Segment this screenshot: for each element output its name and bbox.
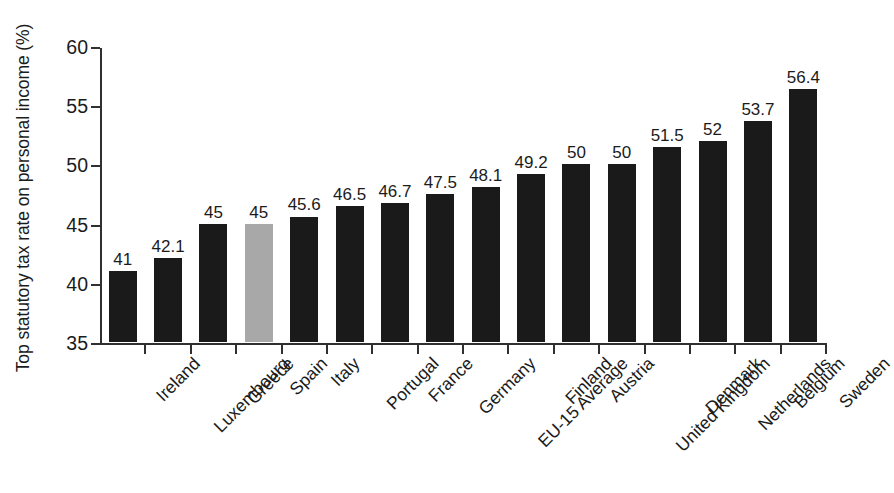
bar [699, 141, 727, 342]
x-axis-tick [371, 345, 373, 354]
bar [653, 147, 681, 342]
x-axis-tick [553, 345, 555, 354]
bar-value-label: 52 [683, 121, 743, 138]
x-axis-tick [825, 345, 827, 354]
x-axis-tick [598, 345, 600, 354]
bar [517, 174, 545, 342]
y-axis-tick-label: 50 [44, 156, 88, 176]
y-axis-tick-label: 40 [44, 275, 88, 295]
x-axis-tick [644, 345, 646, 354]
y-axis-tick [91, 225, 100, 227]
bar [472, 187, 500, 342]
x-axis-tick [235, 345, 237, 354]
bar-value-label: 56.4 [773, 69, 833, 86]
bar [109, 271, 137, 342]
x-axis-category-label: Germany [475, 354, 539, 418]
y-axis-tick-label: 55 [44, 97, 88, 117]
y-axis-tick-label: 45 [44, 216, 88, 236]
x-axis-tick [734, 345, 736, 354]
y-axis-title: Top statutory tax rate on personal incom… [8, 18, 38, 378]
plot-area: 354045505560 4142.1454545.646.546.747.54… [100, 48, 826, 344]
y-axis-tick [91, 106, 100, 108]
y-axis-line [100, 48, 102, 345]
bar [245, 224, 273, 342]
x-axis-tick [689, 345, 691, 354]
y-axis-tick [91, 284, 100, 286]
x-axis-category-label: Italy [328, 354, 363, 389]
bar-value-label: 53.7 [728, 101, 788, 118]
x-axis-tick [417, 345, 419, 354]
x-axis-tick [507, 345, 509, 354]
bar [381, 203, 409, 342]
y-axis-tick [91, 165, 100, 167]
bar [744, 121, 772, 342]
y-axis-tick [91, 47, 100, 49]
x-axis-category-label: Spain [286, 354, 330, 398]
x-axis-tick [780, 345, 782, 354]
x-axis-tick [144, 345, 146, 354]
bar [789, 89, 817, 342]
bar [562, 164, 590, 342]
bar [336, 206, 364, 342]
y-axis-tick [91, 343, 100, 345]
bar-value-label: 50 [592, 144, 652, 161]
bar-value-label: 42.1 [138, 238, 198, 255]
bar [199, 224, 227, 342]
bar [608, 164, 636, 342]
bar [426, 194, 454, 342]
y-axis-tick-label: 60 [44, 38, 88, 58]
y-axis-tick-label: 35 [44, 334, 88, 354]
x-axis-tick [326, 345, 328, 354]
x-axis-tick [281, 345, 283, 354]
bar [290, 217, 318, 343]
bar [154, 258, 182, 342]
x-axis-category-label: Ireland [152, 354, 203, 405]
